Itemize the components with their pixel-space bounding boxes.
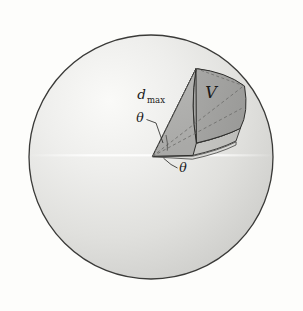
d-max-subscript: max: [147, 95, 165, 105]
diagram-canvas: d max θ θ V: [0, 0, 303, 311]
label-volume-v: V: [205, 83, 218, 102]
label-theta-upper: θ: [136, 110, 144, 125]
figure-container: d max θ θ V: [0, 0, 303, 311]
d-max-base: d: [137, 86, 146, 102]
equator-highlight: [31, 154, 271, 156]
sphere-outline-icon: [29, 35, 273, 279]
label-theta-lower: θ: [179, 160, 187, 175]
